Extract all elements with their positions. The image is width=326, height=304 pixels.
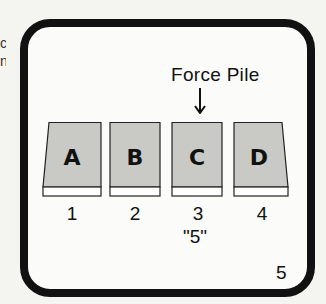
down-arrow-icon [194,88,206,114]
card-letter: A [42,145,102,170]
card-letter: B [109,145,161,170]
card-d: D [233,122,293,197]
position-3: 3 [178,203,218,225]
card-a: A [42,122,102,197]
position-2: 2 [115,203,155,225]
force-pile-label: Force Pile [171,64,260,86]
cropped-edge-text: c n [0,34,6,70]
card-letter: D [233,145,285,170]
position-1: 1 [52,203,92,225]
card-letter: C [171,145,223,170]
card-c: C [171,122,231,197]
forced-value: "5" [165,226,225,248]
position-4: 4 [242,203,282,225]
card-b: B [109,122,169,197]
page-number: 5 [276,262,287,284]
